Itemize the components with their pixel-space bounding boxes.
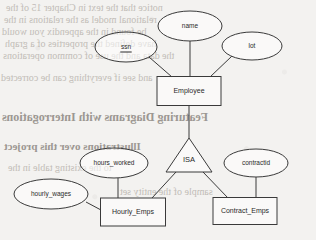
attribute-label: hours_worked: [94, 159, 135, 167]
entity-label: Employee: [173, 87, 204, 95]
entity-node-hourly_emps[interactable]: Hourly_Emps: [101, 198, 166, 226]
relationship-node-isa[interactable]: ISA: [166, 138, 212, 172]
attribute-node-ssn[interactable]: ssn: [95, 32, 157, 62]
attribute-node-lot[interactable]: lot: [222, 32, 282, 60]
edge-lot-employee: [210, 56, 232, 77]
entity-node-contract_emps[interactable]: Contract_Emps: [213, 198, 277, 225]
edge-isa-hourly: [152, 172, 176, 198]
edge-isa-contract: [203, 172, 228, 198]
er-diagram-page: notice that the text in Chapter 15 of th…: [0, 0, 316, 240]
attribute-label: hourly_wages: [31, 190, 72, 198]
attribute-label: contractid: [242, 159, 271, 166]
entity-label: Hourly_Emps: [112, 208, 155, 216]
attribute-label: lot: [249, 42, 256, 49]
attribute-node-hours_worked[interactable]: hours_worked: [80, 148, 148, 178]
er-diagram-canvas: namessnlothours_workedhourly_wagescontra…: [0, 0, 316, 240]
attribute-node-name[interactable]: name: [158, 11, 222, 41]
relationship-label: ISA: [183, 155, 195, 164]
attribute-label: name: [182, 22, 199, 29]
entity-label: Contract_Emps: [221, 207, 270, 215]
edge-group: [86, 41, 256, 210]
attribute-node-contractid[interactable]: contractid: [224, 149, 288, 177]
edge-ssn-employee: [149, 57, 172, 77]
entity-node-employee[interactable]: Employee: [157, 77, 221, 106]
attribute-node-hourly_wages[interactable]: hourly_wages: [14, 179, 88, 209]
attribute-label: ssn: [121, 43, 132, 50]
edge-hourlywages-hourly: [86, 202, 101, 210]
